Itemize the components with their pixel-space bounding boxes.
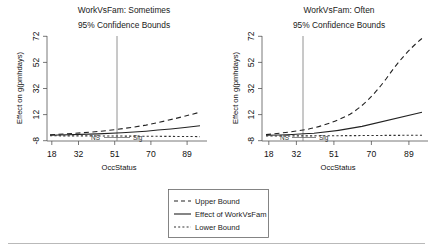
panel-left-annotation-ns: NS	[91, 134, 100, 141]
panel-left-upper-bound-curve	[50, 112, 200, 135]
panel-right-xlabel-18: 18	[264, 149, 274, 159]
panel-left-xlabel-18: 18	[47, 149, 57, 159]
legend-label-upper-bound: Upper Bound	[195, 197, 240, 206]
panel-right-upper-bound-curve	[266, 39, 422, 135]
panel-right-annotation-sig: Sig	[319, 134, 329, 142]
panel-left-effect-curve	[50, 126, 200, 136]
panel-left-subtitle: 95% Confidence Bounds	[78, 20, 170, 30]
panel-left-xlabel-51: 51	[110, 149, 120, 159]
panel-right-x-axis-title: OccStatus	[320, 163, 355, 172]
panel-right-xlabel-32: 32	[292, 149, 302, 159]
panel-right-effect-curve	[266, 112, 422, 135]
panel-left-xlabel-32: 32	[74, 149, 84, 159]
panel-right-ylabel-12: 12	[246, 110, 256, 120]
legend-label-effect: Effect of WorkVsFam	[195, 210, 266, 219]
panel-right-xlabel-51: 51	[329, 149, 339, 159]
panel-left-title: WorkVsFam: Sometimes	[78, 5, 170, 15]
panel-left-x-axis-title: OccStatus	[101, 163, 136, 172]
panel-left-annotation-sig: Sig	[133, 134, 143, 142]
panel-right-ylabel-72: 72	[246, 31, 256, 41]
legend-label-lower-bound: Lower Bound	[195, 223, 240, 232]
panel-left-ylabel-52: 52	[31, 57, 41, 67]
panel-left-ylabel-neg8: -8	[31, 137, 41, 145]
panel-left-ylabel-72: 72	[31, 31, 41, 41]
panel-left-xlabel-70: 70	[146, 149, 156, 159]
legend: Upper Bound Effect of WorkVsFam Lower Bo…	[169, 190, 269, 238]
panel-right-ylabel-neg8: -8	[246, 137, 256, 145]
panel-right-lower-bound-curve	[266, 135, 422, 136]
panel-left: WorkVsFam: Sometimes 95% Confidence Boun…	[15, 5, 207, 172]
panel-left-xlabel-89: 89	[182, 149, 192, 159]
panel-right-subtitle: 95% Confidence Bounds	[293, 20, 385, 30]
panel-right-annotation-ns: NS	[280, 134, 289, 141]
panel-right: WorkVsFam: Often 95% Confidence Bounds 7…	[231, 5, 428, 172]
panel-left-lower-bound-curve	[50, 136, 200, 137]
panel-right-xlabel-70: 70	[367, 149, 377, 159]
panel-left-ylabel-32: 32	[31, 84, 41, 94]
panel-left-y-axis-title: Effect on g(pmhdays)	[15, 52, 24, 125]
panel-right-ylabel-52: 52	[246, 57, 256, 67]
figure-container: WorkVsFam: Sometimes 95% Confidence Boun…	[0, 0, 433, 252]
panel-left-ylabel-12: 12	[31, 110, 41, 120]
panel-right-title: WorkVsFam: Often	[303, 5, 374, 15]
panel-right-y-axis-title: Effect on g(pmhdays)	[231, 52, 240, 125]
panel-right-ylabel-32: 32	[246, 84, 256, 94]
chart-canvas: WorkVsFam: Sometimes 95% Confidence Boun…	[0, 0, 433, 252]
panel-right-xlabel-89: 89	[404, 149, 414, 159]
